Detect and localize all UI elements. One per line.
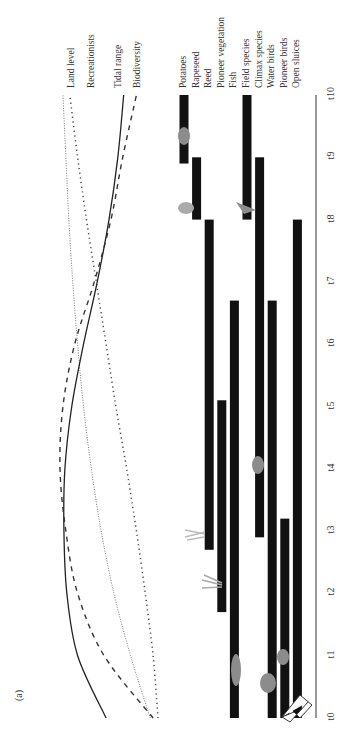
time-tick-t10: t10 bbox=[325, 82, 336, 106]
bar-reed bbox=[205, 220, 214, 550]
bar-open-sluices bbox=[293, 220, 302, 718]
curve-label-recreationists: Recreationists bbox=[86, 34, 96, 88]
bar-label-climax-species: Climax species bbox=[254, 30, 264, 88]
reed-icon bbox=[185, 530, 205, 540]
bar-rapeseed bbox=[192, 157, 201, 219]
time-tick-t8: t8 bbox=[325, 206, 336, 230]
time-tick-t0: t0 bbox=[325, 705, 336, 729]
bar-field-species bbox=[243, 95, 252, 220]
bar-label-field-species: Field species bbox=[241, 39, 251, 88]
bar-label-rapeseed: Rapeseed bbox=[191, 52, 201, 88]
time-tick-t6: t6 bbox=[325, 331, 336, 355]
curve-tidal-range bbox=[64, 95, 124, 718]
curve-label-tidal-range: Tidal range bbox=[113, 45, 123, 88]
panel-label: (a) bbox=[13, 684, 24, 708]
bar-label-water-birds: Water birds bbox=[266, 44, 276, 88]
time-tick-t7: t7 bbox=[325, 268, 336, 292]
curve-label-biodiversity: Biodiversity bbox=[132, 41, 142, 88]
time-tick-t4: t4 bbox=[325, 455, 336, 479]
bar-label-open-sluices: Open sluices bbox=[291, 39, 301, 88]
time-tick-t9: t9 bbox=[325, 144, 336, 168]
potato-icon bbox=[178, 127, 190, 145]
bar-label-pioneer-vegetation: Pioneer vegetation bbox=[216, 17, 226, 88]
bar-pioneer-birds bbox=[280, 519, 289, 718]
fish-icon bbox=[231, 654, 241, 686]
wader-icon bbox=[277, 649, 289, 665]
bar-label-potatoes: Potatoes bbox=[178, 56, 188, 88]
time-tick-t3: t3 bbox=[325, 518, 336, 542]
duck-icon bbox=[260, 673, 276, 693]
time-tick-t2: t2 bbox=[325, 580, 336, 604]
time-tick-t1: t1 bbox=[325, 642, 336, 666]
bar-label-pioneer-birds: Pioneer birds bbox=[279, 38, 289, 88]
bar-water-birds bbox=[268, 301, 277, 718]
curve-label-land-level: Land level bbox=[66, 48, 76, 88]
curve-biodiversity bbox=[60, 95, 153, 718]
rapeseed-icon bbox=[178, 202, 194, 214]
bar-label-fish: Fish bbox=[228, 72, 238, 88]
time-tick-t5: t5 bbox=[325, 393, 336, 417]
bar-pioneer-vegetation bbox=[217, 400, 226, 612]
chart-canvas bbox=[0, 0, 360, 736]
curve-land-level bbox=[63, 95, 150, 718]
deer-icon bbox=[252, 456, 264, 474]
bar-climax-species bbox=[255, 157, 264, 537]
bar-label-reed: Reed bbox=[203, 68, 213, 88]
